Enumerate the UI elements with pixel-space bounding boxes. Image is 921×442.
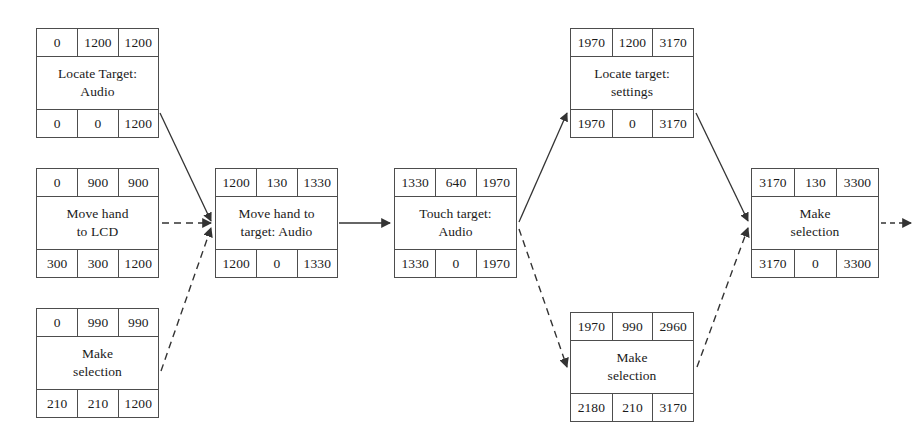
node-bottom-row: 1200 0 1330 [216,249,337,277]
node-label: Move hand to target: Audio [216,197,337,249]
cell-latest-finish: 1200 [118,390,158,417]
node-make-selection-left[interactable]: 0 990 990 Make selection 210 210 1200 [36,308,159,418]
node-label: Make selection [752,197,878,249]
cell-duration: 990 [77,309,117,336]
cell-slack: 300 [77,250,117,277]
node-top-row: 0 1200 1200 [37,29,158,57]
node-bottom-row: 1970 0 3170 [571,109,693,137]
network-diagram: 0 1200 1200 Locate Target: Audio 0 0 120… [0,0,921,442]
cell-latest-start: 1970 [571,110,612,137]
edge-locate-audio-to-move-target [160,113,211,221]
node-bottom-row: 3170 0 3300 [752,249,878,277]
cell-slack: 0 [256,250,296,277]
cell-earliest-finish: 1970 [476,169,516,196]
cell-slack: 0 [612,110,653,137]
cell-slack: 210 [77,390,117,417]
node-top-row: 0 900 900 [37,169,158,197]
node-label: Make selection [571,341,693,393]
cell-duration: 130 [256,169,296,196]
node-bottom-row: 300 300 1200 [37,249,158,277]
cell-earliest-finish: 900 [118,169,158,196]
cell-slack: 210 [612,394,653,421]
cell-duration: 990 [612,313,653,340]
cell-earliest-start: 1970 [571,313,612,340]
cell-duration: 130 [794,169,836,196]
node-label: Locate target: settings [571,57,693,109]
cell-earliest-finish: 3300 [836,169,878,196]
cell-earliest-start: 1330 [395,169,435,196]
node-label: Locate Target: Audio [37,57,158,109]
cell-latest-finish: 1200 [118,110,158,137]
node-make-selection-right[interactable]: 3170 130 3300 Make selection 3170 0 3300 [751,168,879,278]
cell-earliest-start: 0 [37,169,77,196]
cell-duration: 900 [77,169,117,196]
cell-duration: 1200 [612,29,653,56]
cell-earliest-finish: 990 [118,309,158,336]
cell-latest-finish: 3170 [652,110,693,137]
node-label: Make selection [37,337,158,389]
node-bottom-row: 1330 0 1970 [395,249,516,277]
node-label: Touch target: Audio [395,197,516,249]
edge-touch-target-to-make-selection-bottom [519,229,567,367]
node-top-row: 1200 130 1330 [216,169,337,197]
cell-earliest-finish: 2960 [652,313,693,340]
cell-earliest-finish: 1200 [118,29,158,56]
cell-latest-finish: 1200 [118,250,158,277]
node-make-selection-bottom[interactable]: 1970 990 2960 Make selection 2180 210 31… [570,312,694,422]
node-top-row: 1970 990 2960 [571,313,693,341]
node-top-row: 0 990 990 [37,309,158,337]
edge-make-selection-left-to-move-target [161,228,211,371]
cell-slack: 0 [794,250,836,277]
cell-earliest-start: 0 [37,309,77,336]
cell-earliest-start: 1200 [216,169,256,196]
node-bottom-row: 0 0 1200 [37,109,158,137]
cell-latest-start: 1330 [395,250,435,277]
node-move-hand-to-lcd[interactable]: 0 900 900 Move hand to LCD 300 300 1200 [36,168,159,278]
cell-latest-start: 210 [37,390,77,417]
edge-make-selection-bottom-to-make-selection-right [697,228,748,367]
edge-locate-settings-to-make-selection-right [696,113,748,221]
cell-latest-start: 1200 [216,250,256,277]
cell-earliest-finish: 1330 [297,169,337,196]
cell-earliest-finish: 3170 [652,29,693,56]
node-top-row: 1970 1200 3170 [571,29,693,57]
cell-slack: 0 [77,110,117,137]
cell-earliest-start: 3170 [752,169,794,196]
edge-touch-target-to-locate-settings [519,113,567,222]
cell-earliest-start: 1970 [571,29,612,56]
cell-latest-start: 3170 [752,250,794,277]
cell-earliest-start: 0 [37,29,77,56]
cell-latest-finish: 3170 [652,394,693,421]
node-touch-target-audio[interactable]: 1330 640 1970 Touch target: Audio 1330 0… [394,168,517,278]
cell-slack: 0 [435,250,475,277]
node-locate-target-audio[interactable]: 0 1200 1200 Locate Target: Audio 0 0 120… [36,28,159,138]
node-top-row: 3170 130 3300 [752,169,878,197]
cell-latest-finish: 3300 [836,250,878,277]
cell-duration: 1200 [77,29,117,56]
cell-latest-finish: 1970 [476,250,516,277]
node-label: Move hand to LCD [37,197,158,249]
cell-latest-start: 300 [37,250,77,277]
cell-latest-finish: 1330 [297,250,337,277]
cell-duration: 640 [435,169,475,196]
cell-latest-start: 2180 [571,394,612,421]
node-bottom-row: 2180 210 3170 [571,393,693,421]
node-top-row: 1330 640 1970 [395,169,516,197]
cell-latest-start: 0 [37,110,77,137]
node-bottom-row: 210 210 1200 [37,389,158,417]
node-move-hand-to-target-audio[interactable]: 1200 130 1330 Move hand to target: Audio… [215,168,338,278]
node-locate-target-settings[interactable]: 1970 1200 3170 Locate target: settings 1… [570,28,694,138]
